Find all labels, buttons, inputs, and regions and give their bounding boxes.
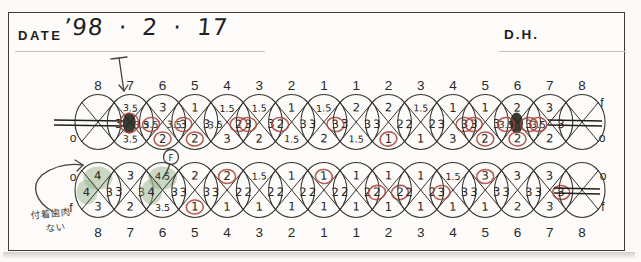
pocket-depth-value: 1.5 bbox=[413, 102, 428, 113]
pocket-depth-value: 1 bbox=[288, 168, 296, 182]
pocket-depth-value: 2 bbox=[513, 100, 521, 114]
pocket-depth-value: 1 bbox=[449, 199, 457, 213]
pocket-depth-value: 2 bbox=[191, 168, 199, 182]
tooth-number: 4 bbox=[223, 78, 231, 93]
pocket-depth-value: 1 bbox=[481, 199, 489, 213]
pocket-depth-value: 1 bbox=[385, 132, 392, 146]
tooth: 13325 bbox=[462, 78, 508, 150]
tooth: 1.53321 bbox=[301, 78, 347, 150]
tooth: 2331.51 bbox=[333, 78, 379, 150]
pocket-depth-value: 1.5 bbox=[316, 102, 332, 114]
scan-edge-shadow bbox=[3, 252, 635, 258]
pocket-depth-value: 1 bbox=[223, 199, 231, 213]
pocket-depth-value: 2 bbox=[276, 185, 284, 199]
tooth-number: 2 bbox=[288, 78, 296, 93]
missing-tooth-strike bbox=[554, 188, 600, 189]
pocket-depth-value: 2 bbox=[341, 185, 348, 199]
tooth-number: 5 bbox=[481, 225, 489, 240]
pocket-depth-value: 3 bbox=[179, 185, 187, 199]
pocket-depth-value: 2 bbox=[127, 199, 135, 213]
tooth-number: 1 bbox=[352, 225, 360, 240]
pocket-depth-value: 3 bbox=[363, 117, 371, 131]
surface-label-o: o bbox=[600, 169, 607, 183]
pocket-depth-value: 1.5 bbox=[252, 102, 267, 113]
note-line1: 付着歯肉 bbox=[30, 206, 71, 221]
tooth: 12211 bbox=[333, 163, 379, 241]
tooth: 4.5433.56 bbox=[140, 163, 186, 241]
tooth-number: 3 bbox=[256, 78, 264, 93]
pocket-depth-value: 1 bbox=[352, 199, 360, 213]
pocket-depth-value: 2 bbox=[244, 185, 252, 199]
pocket-depth-value: 3.5 bbox=[123, 133, 138, 144]
tooth: 1.53.5234 bbox=[204, 78, 250, 150]
pocket-depth-value: 2 bbox=[481, 131, 489, 145]
pocket-depth-value: 1 bbox=[288, 100, 296, 114]
tooth-number: 2 bbox=[385, 225, 393, 240]
pocket-depth-value: 3 bbox=[115, 185, 122, 199]
tooth-number: 3 bbox=[256, 225, 264, 240]
pocket-depth-value: 2 bbox=[331, 185, 339, 199]
pocket-depth-value: 3 bbox=[449, 131, 457, 145]
pocket-depth-value: 3 bbox=[223, 131, 231, 145]
tooth: 23315 bbox=[172, 163, 218, 241]
tooth-number: 6 bbox=[159, 225, 167, 240]
tooth-number: 8 bbox=[578, 78, 586, 93]
pocket-depth-value: 1 bbox=[385, 200, 392, 214]
tooth: 33.5327 bbox=[527, 78, 573, 150]
tooth: 8 bbox=[554, 163, 605, 241]
missing-tooth-strike bbox=[54, 125, 124, 126]
pocket-depth-value: 1.5 bbox=[252, 170, 267, 181]
pocket-depth-value: 1 bbox=[191, 199, 199, 213]
pocket-depth-value: 1.5 bbox=[220, 103, 235, 114]
pocket-depth-value: 3 bbox=[546, 100, 554, 114]
pocket-depth-value: 1 bbox=[352, 168, 360, 182]
tooth: 13334 bbox=[430, 78, 476, 150]
tooth-number: 6 bbox=[514, 78, 522, 93]
pocket-depth-value: 2 bbox=[373, 185, 381, 199]
tooth-number: 2 bbox=[288, 225, 296, 240]
tooth: 12211 bbox=[301, 163, 347, 241]
tooth: 12213 bbox=[398, 163, 444, 241]
pocket-depth-value: 3 bbox=[546, 199, 554, 213]
dark-pen-scribble bbox=[123, 113, 136, 134]
pocket-depth-value: 3 bbox=[179, 117, 187, 131]
tooth-number: 5 bbox=[481, 78, 489, 93]
pocket-depth-value: 2 bbox=[276, 117, 284, 131]
tooth-number: 5 bbox=[191, 78, 199, 93]
surface-label-f: f bbox=[600, 96, 604, 110]
pocket-depth-value: 2 bbox=[514, 131, 522, 145]
pocket-depth-value: 1 bbox=[288, 199, 296, 213]
furcation-letter: F bbox=[168, 153, 173, 163]
pocket-depth-value: 3.5 bbox=[208, 119, 224, 131]
tooth: 1.52213 bbox=[398, 78, 444, 150]
pocket-depth-value: 1.5 bbox=[445, 171, 460, 182]
pocket-depth-value: 3 bbox=[105, 185, 113, 199]
tooth-number: 3 bbox=[417, 225, 425, 240]
pocket-depth-value: 4 bbox=[147, 185, 155, 199]
pocket-depth-value: 3.5 bbox=[531, 119, 546, 130]
pocket-depth-value: 2 bbox=[159, 132, 166, 146]
tooth: 33326 bbox=[495, 163, 541, 241]
tooth: 13325 bbox=[172, 78, 218, 150]
tooth-number: 6 bbox=[159, 78, 167, 93]
pocket-depth-value: 4.5 bbox=[155, 170, 170, 182]
tooth-number: 2 bbox=[385, 78, 393, 93]
pocket-depth-value: 4 bbox=[83, 185, 91, 199]
missing-tooth-strike bbox=[54, 120, 124, 121]
tooth-number: 8 bbox=[94, 78, 102, 93]
pocket-depth-value: 2 bbox=[309, 185, 317, 199]
missing-tooth-strike bbox=[548, 125, 602, 126]
pocket-depth-value: 1 bbox=[320, 199, 328, 213]
pocket-depth-value: 3 bbox=[331, 117, 339, 131]
surface-label-o: o bbox=[70, 170, 77, 184]
pocket-depth-value: 1 bbox=[449, 101, 456, 115]
tooth: 33315 bbox=[462, 163, 508, 241]
tooth: 23212 bbox=[365, 78, 411, 150]
surface-label-o: o bbox=[70, 131, 77, 145]
pocket-depth-value: 4 bbox=[94, 168, 102, 182]
pocket-depth-value: 3 bbox=[513, 168, 521, 182]
tooth-number: 8 bbox=[94, 225, 102, 240]
tooth: 33337 bbox=[527, 163, 573, 241]
pocket-depth-value: 3 bbox=[502, 185, 510, 199]
surface-label-o: o bbox=[599, 131, 606, 145]
